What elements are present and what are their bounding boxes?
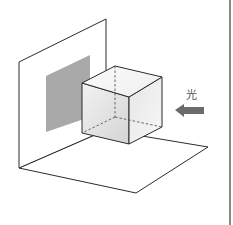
shadow-projection-diagram: [0, 0, 233, 225]
right-border-divider: [229, 0, 231, 225]
light-arrow-icon: [175, 104, 204, 117]
light-label: 光: [186, 86, 197, 102]
